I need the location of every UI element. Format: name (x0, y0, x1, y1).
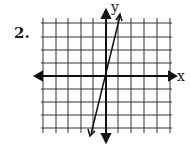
arrow-left-icon (35, 72, 42, 80)
arrow-up-icon (102, 10, 110, 18)
coordinate-graph (0, 0, 190, 144)
y-axis-label: y (111, 0, 119, 15)
arrow-down-icon (102, 134, 110, 142)
arrow-right-icon (169, 72, 176, 80)
x-axis-label: x (177, 68, 185, 84)
